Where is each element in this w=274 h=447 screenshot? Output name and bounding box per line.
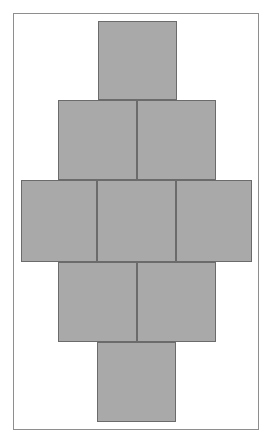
net-face-middle-left — [21, 180, 97, 262]
figure-canvas — [0, 0, 274, 447]
net-face-top — [98, 21, 177, 100]
net-face-lower-right — [137, 262, 216, 342]
net-face-bottom — [97, 342, 176, 422]
net-face-lower-left — [58, 262, 137, 342]
net-face-upper-left — [58, 100, 137, 180]
cube-net-group — [0, 0, 274, 447]
net-face-upper-right — [137, 100, 216, 180]
net-face-middle-center — [97, 180, 176, 262]
net-face-middle-right — [176, 180, 252, 262]
